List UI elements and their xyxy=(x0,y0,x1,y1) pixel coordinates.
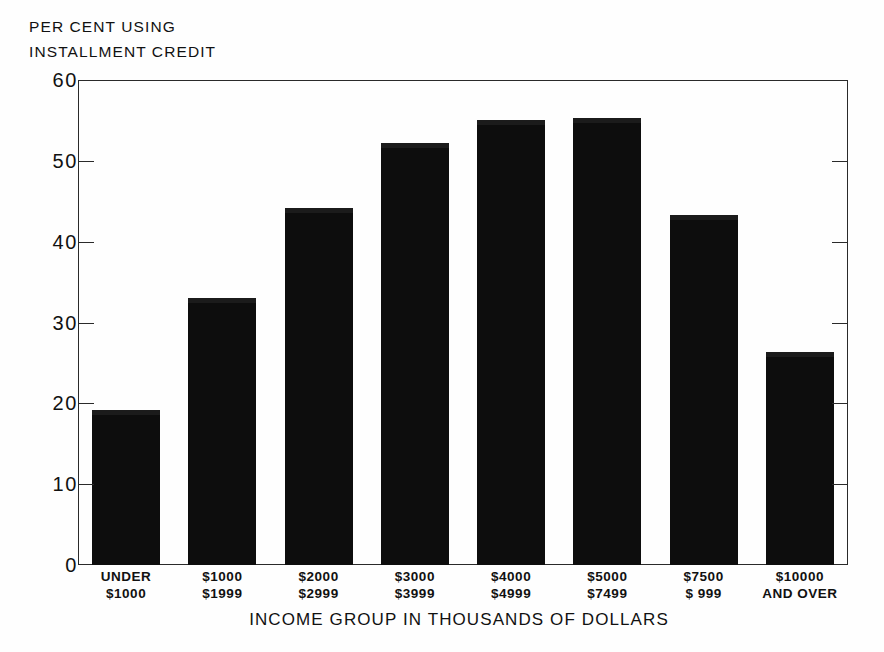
bar xyxy=(92,410,160,565)
x-axis-tick-label: $2000$2999 xyxy=(271,568,367,602)
y-axis-tick-label: 30 xyxy=(18,311,78,334)
x-axis-tick-label-line-2: $ 999 xyxy=(656,585,752,602)
x-axis-tick-label-line-2: AND OVER xyxy=(752,585,848,602)
x-axis-tick-label: UNDER$1000 xyxy=(78,568,174,602)
bar xyxy=(477,120,545,565)
x-axis-tick-labels: UNDER$1000$1000$1999$2000$2999$3000$3999… xyxy=(78,568,848,614)
bar xyxy=(766,352,834,565)
y-axis-tick-mark-right xyxy=(832,484,848,485)
x-axis-tick-label: $7500$ 999 xyxy=(656,568,752,602)
x-axis-title: INCOME GROUP IN THOUSANDS OF DOLLARS xyxy=(0,610,884,630)
y-axis-tick-mark xyxy=(78,484,94,485)
x-axis-tick-label-line-1: $3000 xyxy=(367,568,463,585)
bar xyxy=(285,208,353,565)
y-axis-tick-mark-right xyxy=(832,161,848,162)
x-axis-title-text: INCOME GROUP IN THOUSANDS OF DOLLARS xyxy=(215,610,669,629)
x-axis-tick-label-line-1: $5000 xyxy=(559,568,655,585)
bars-layer xyxy=(78,80,848,565)
y-axis-tick-mark xyxy=(78,403,94,404)
x-axis-tick-label-line-2: $4999 xyxy=(463,585,559,602)
y-axis-tick-label: 50 xyxy=(18,149,78,172)
x-axis-tick-label-line-1: $10000 xyxy=(752,568,848,585)
x-axis-tick-label: $10000AND OVER xyxy=(752,568,848,602)
x-axis-tick-label-line-2: $2999 xyxy=(271,585,367,602)
y-axis-tick-mark-right xyxy=(832,323,848,324)
x-axis-tick-label-line-1: $1000 xyxy=(174,568,270,585)
x-axis-tick-label-line-2: $1999 xyxy=(174,585,270,602)
y-axis-tick-label: 20 xyxy=(18,392,78,415)
y-axis-tick-mark xyxy=(78,161,94,162)
y-axis-ticks: 0102030405060 xyxy=(0,0,78,652)
x-axis-tick-label-line-2: $3999 xyxy=(367,585,463,602)
bar xyxy=(670,215,738,565)
x-axis-tick-label: $5000$7499 xyxy=(559,568,655,602)
y-axis-tick-label: 0 xyxy=(18,554,78,577)
x-axis-tick-label-line-1: $4000 xyxy=(463,568,559,585)
x-axis-tick-label-line-2: $7499 xyxy=(559,585,655,602)
bar xyxy=(381,143,449,565)
y-axis-tick-mark xyxy=(78,323,94,324)
bar xyxy=(573,118,641,565)
bar xyxy=(188,298,256,565)
y-axis-tick-label: 60 xyxy=(18,69,78,92)
x-axis-tick-label-line-1: UNDER xyxy=(78,568,174,585)
y-axis-tick-label: 10 xyxy=(18,473,78,496)
y-axis-tick-mark-right xyxy=(832,403,848,404)
x-axis-tick-label-line-2: $1000 xyxy=(78,585,174,602)
bar-chart-figure: PER CENT USING INSTALLMENT CREDIT 010203… xyxy=(0,0,884,652)
x-axis-tick-label-line-1: $7500 xyxy=(656,568,752,585)
y-axis-tick-mark xyxy=(78,242,94,243)
y-axis-tick-label: 40 xyxy=(18,230,78,253)
y-axis-tick-mark-right xyxy=(832,242,848,243)
x-axis-tick-label: $3000$3999 xyxy=(367,568,463,602)
x-axis-tick-label: $1000$1999 xyxy=(174,568,270,602)
x-axis-tick-label: $4000$4999 xyxy=(463,568,559,602)
x-axis-tick-label-line-1: $2000 xyxy=(271,568,367,585)
